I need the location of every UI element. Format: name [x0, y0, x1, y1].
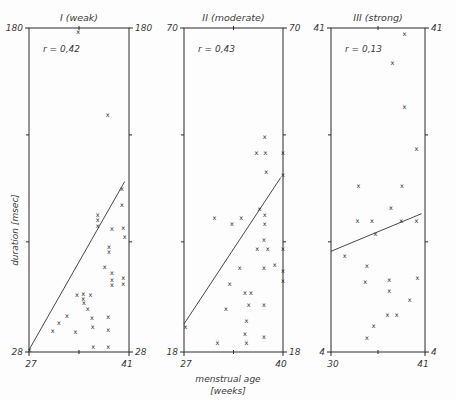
x-tick-label-left: 30 — [327, 359, 339, 369]
data-point: x — [91, 343, 95, 351]
data-point: x — [184, 323, 188, 331]
regression-line — [29, 181, 125, 349]
data-point: x — [51, 327, 55, 335]
panel-frame — [184, 28, 283, 352]
data-point: x — [365, 334, 369, 342]
panel-title: III (strong) — [353, 12, 402, 23]
data-point: x — [249, 289, 253, 297]
data-point: x — [387, 276, 391, 284]
figure-svg: xxxxxxxxxxxxxxxxxxxxxxxxxxxxxxxxxxxI (we… — [0, 0, 456, 400]
x-tick-label-right: 41 — [121, 359, 132, 369]
data-point: x — [399, 217, 403, 225]
data-point: x — [254, 149, 258, 157]
y-tick-label-top-right: 41 — [431, 23, 442, 33]
data-point: x — [86, 305, 90, 313]
panel-group: xxxxxxxxxxxxxxxxxxxxxxxxxxxxxxxxxxxI (we… — [6, 12, 443, 369]
data-point: x — [266, 245, 270, 253]
data-point: x — [213, 214, 217, 222]
data-point: x — [370, 217, 374, 225]
data-point: x — [403, 30, 407, 38]
x-tick-label-right: 41 — [417, 359, 428, 369]
data-point: x — [415, 274, 419, 282]
data-point: x — [400, 182, 404, 190]
data-point: x — [264, 168, 268, 176]
data-point: x — [65, 312, 69, 320]
data-point: x — [103, 263, 107, 271]
y-tick-label-bottom-left: 18 — [167, 347, 179, 357]
data-point: x — [264, 149, 268, 157]
data-point: x — [395, 311, 399, 319]
panel-title: II (moderate) — [202, 12, 264, 23]
data-point: x — [356, 217, 360, 225]
data-point: x — [262, 236, 266, 244]
data-point: x — [120, 201, 124, 209]
data-point: x — [385, 311, 389, 319]
data-point: x — [75, 291, 79, 299]
data-point: x — [262, 264, 266, 272]
data-point: x — [363, 278, 367, 286]
correlation-label: r = 0,13 — [345, 44, 382, 54]
x-tick-label-right: 40 — [275, 359, 287, 369]
data-point: x — [343, 252, 347, 260]
data-point: x — [106, 313, 110, 321]
panel-2: xxxxxxxxxxxxxxxxxxxxxxxxxxxxxxxxxII (mod… — [167, 12, 301, 369]
panel-title: I (weak) — [60, 12, 98, 23]
data-point: x — [110, 225, 114, 233]
data-point: x — [121, 280, 125, 288]
data-point: x — [263, 133, 267, 141]
x-tick-label-left: 27 — [180, 359, 192, 369]
data-point: x — [391, 59, 395, 67]
data-point: x — [273, 261, 277, 269]
data-point: x — [239, 214, 243, 222]
data-point: x — [262, 333, 266, 341]
data-point: x — [281, 245, 285, 253]
data-point: x — [243, 330, 247, 338]
data-point: x — [120, 185, 124, 193]
data-point: x — [106, 326, 110, 334]
data-point: x — [387, 287, 391, 295]
data-point: x — [247, 301, 251, 309]
data-point: x — [91, 323, 95, 331]
y-tick-label-top-left: 70 — [167, 23, 179, 33]
y-tick-label-top-left: 180 — [6, 23, 23, 33]
data-point: x — [96, 222, 100, 230]
data-point: x — [262, 301, 266, 309]
data-point: x — [389, 204, 393, 212]
data-point: x — [281, 149, 285, 157]
data-point: x — [90, 314, 94, 322]
data-point: x — [372, 322, 376, 330]
data-point: x — [415, 145, 419, 153]
data-point: x — [106, 111, 110, 119]
data-point: x — [73, 328, 77, 336]
y-axis-title: duration [msec] — [10, 194, 20, 266]
data-point: x — [281, 267, 285, 275]
y-tick-label-bottom-right: 4 — [431, 347, 437, 357]
data-point: x — [243, 289, 247, 297]
y-tick-label-bottom-right: 18 — [289, 347, 301, 357]
data-point: x — [365, 262, 369, 270]
data-point: x — [263, 220, 267, 228]
data-point: x — [257, 205, 261, 213]
data-point: x — [28, 346, 32, 354]
data-point: x — [238, 264, 242, 272]
y-tick-label-top-left: 41 — [314, 23, 325, 33]
data-point: x — [228, 280, 232, 288]
y-tick-label-bottom-left: 28 — [12, 347, 24, 357]
data-point: x — [88, 291, 92, 299]
scatter-figure: xxxxxxxxxxxxxxxxxxxxxxxxxxxxxxxxxxxI (we… — [0, 0, 456, 400]
data-point: x — [408, 296, 412, 304]
data-point: x — [224, 305, 228, 313]
y-tick-label-top-right: 180 — [135, 23, 152, 33]
data-point: x — [263, 211, 267, 219]
data-point: x — [245, 339, 249, 347]
x-tick-label-left: 27 — [25, 359, 37, 369]
y-tick-label-top-right: 70 — [289, 23, 301, 33]
data-point: x — [255, 245, 259, 253]
data-point: x — [121, 224, 125, 232]
data-point: x — [110, 281, 114, 289]
panel-frame — [29, 28, 129, 352]
data-point: x — [403, 103, 407, 111]
data-point: x — [57, 319, 61, 327]
data-point: x — [245, 317, 249, 325]
data-point: x — [281, 171, 285, 179]
